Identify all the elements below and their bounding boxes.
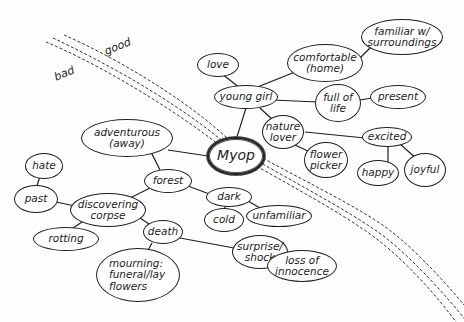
node-love[interactable]: love [197, 53, 239, 77]
node-joyful[interactable]: joyful [404, 153, 446, 187]
node-excited[interactable]: excited [362, 127, 412, 147]
node-nature-lover[interactable]: nature lover [262, 115, 304, 149]
node-full-of-life[interactable]: full of life [315, 84, 361, 122]
node-comfortable-home[interactable]: comfortable (home) [287, 44, 363, 82]
node-forest[interactable]: forest [144, 169, 192, 193]
node-young-girl[interactable]: young girl [214, 85, 278, 109]
node-mourning[interactable]: mourning: funeral/lay flowers [96, 248, 180, 302]
node-flower-picker[interactable]: flower picker [304, 142, 348, 178]
node-familiar-surroundings[interactable]: familiar w/ surroundings [361, 19, 443, 55]
node-dark[interactable]: dark [206, 187, 252, 207]
node-past[interactable]: past [14, 185, 58, 213]
node-rotting[interactable]: rotting [33, 227, 99, 251]
node-discovering-corpse[interactable]: discovering corpse [70, 193, 146, 227]
node-hate[interactable]: hate [25, 153, 63, 179]
node-present[interactable]: present [370, 85, 426, 109]
node-happy[interactable]: happy [357, 160, 399, 186]
node-unfamiliar[interactable]: unfamiliar [246, 205, 312, 227]
node-cold[interactable]: cold [204, 208, 244, 232]
node-adventurous-away[interactable]: adventurous (away) [81, 119, 173, 157]
node-death[interactable]: death [143, 220, 183, 244]
mind-map-canvas: good bad Myop love young girl comfortabl… [0, 0, 464, 322]
node-loss-of-innocence[interactable]: loss of innocence [267, 250, 337, 282]
center-node-myop[interactable]: Myop [207, 137, 265, 175]
